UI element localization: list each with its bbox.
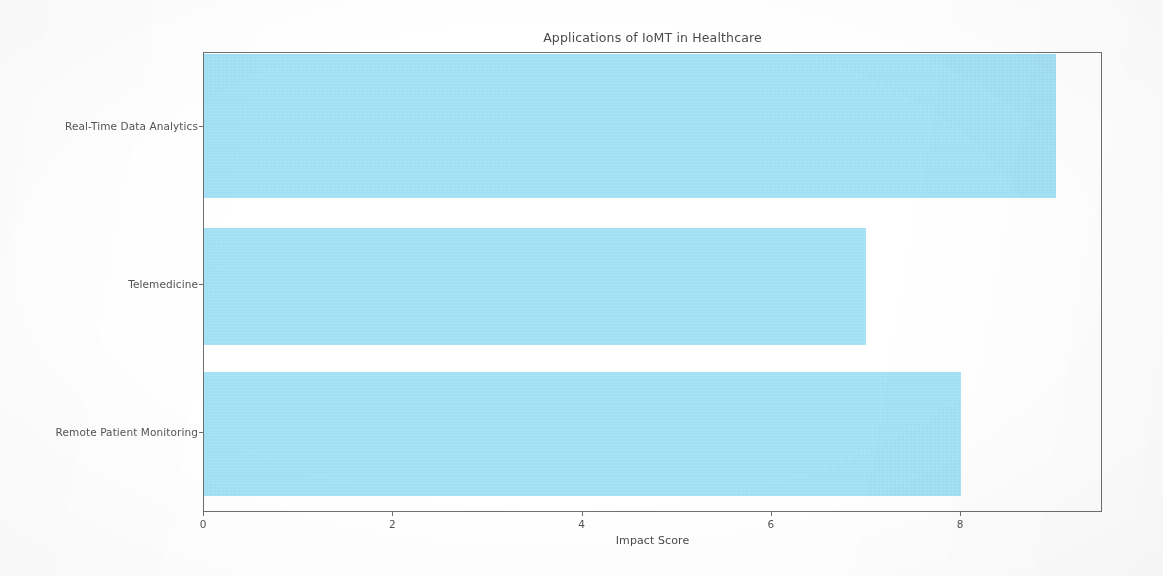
xtick-label-4: 4: [578, 518, 585, 530]
ytick-label-remote-patient-monitoring: Remote Patient Monitoring: [56, 426, 198, 438]
xtick-label-2: 2: [389, 518, 396, 530]
ytick-mark-remote-patient-monitoring: [199, 432, 203, 433]
xtick-mark-8: [960, 512, 961, 516]
chart-title: Applications of IoMT in Healthcare: [203, 30, 1102, 45]
xtick-mark-2: [392, 512, 393, 516]
bar-real-time-data-analytics: [204, 54, 1056, 198]
x-axis-label: Impact Score: [203, 534, 1102, 547]
bar-remote-patient-monitoring: [204, 372, 961, 496]
xtick-mark-6: [771, 512, 772, 516]
xtick-label-8: 8: [957, 518, 964, 530]
ytick-mark-real-time-data-analytics: [199, 126, 203, 127]
ytick-label-telemedicine: Telemedicine: [128, 278, 198, 290]
xtick-label-0: 0: [200, 518, 207, 530]
bar-telemedicine: [204, 228, 866, 345]
xtick-mark-4: [582, 512, 583, 516]
xtick-mark-0: [203, 512, 204, 516]
xtick-label-6: 6: [767, 518, 774, 530]
plot-area: [203, 52, 1102, 512]
ytick-mark-telemedicine: [199, 284, 203, 285]
chart-figure: Applications of IoMT in Healthcare Real-…: [0, 0, 1163, 576]
y-axis-tick-labels: Real-Time Data Analytics Telemedicine Re…: [0, 52, 198, 512]
ytick-label-real-time-data-analytics: Real-Time Data Analytics: [65, 120, 198, 132]
